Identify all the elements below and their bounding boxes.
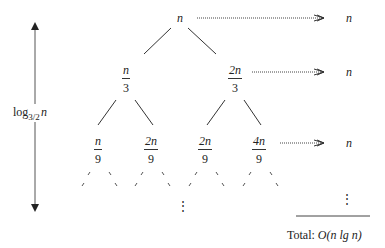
denominator: 9 <box>148 150 154 165</box>
level-cost-1: n <box>346 66 352 78</box>
diagram-lines <box>0 0 385 248</box>
level1-node-right: 2n3 <box>228 64 242 94</box>
root-label: n <box>177 11 183 25</box>
log-arg: n <box>41 105 47 119</box>
numerator: 2n <box>228 64 242 79</box>
numerator: 4n <box>252 135 266 150</box>
total-label: Total: O(n lg n) <box>287 228 362 243</box>
root-node: n <box>177 12 183 24</box>
denominator: 9 <box>202 150 208 165</box>
denominator: 3 <box>123 79 129 94</box>
denominator: 9 <box>256 150 262 165</box>
level2-node-3: 2n9 <box>198 135 212 165</box>
numerator: 2n <box>144 135 158 150</box>
denominator: 3 <box>232 79 238 94</box>
log-base: 3/2 <box>28 112 40 122</box>
numerator: n <box>94 135 102 150</box>
level2-node-1: n9 <box>94 135 102 165</box>
numerator: 2n <box>198 135 212 150</box>
total-prefix: Total: <box>287 228 315 242</box>
level-cost-2: n <box>346 137 352 149</box>
log-prefix: log <box>13 105 28 119</box>
numerator: n <box>122 64 130 79</box>
level-cost-0: n <box>346 12 352 24</box>
denominator: 9 <box>95 150 101 165</box>
level2-node-2: 2n9 <box>144 135 158 165</box>
level1-node-left: n3 <box>122 64 130 94</box>
height-label: log3/2 n <box>13 105 47 120</box>
tree-continuation-dots: ⋮ <box>177 200 189 212</box>
subtree-stubs <box>82 172 278 186</box>
cost-continuation-dots: ⋮ <box>341 193 353 205</box>
total-value: O(n lg n) <box>318 228 362 242</box>
level2-node-4: 4n9 <box>252 135 266 165</box>
